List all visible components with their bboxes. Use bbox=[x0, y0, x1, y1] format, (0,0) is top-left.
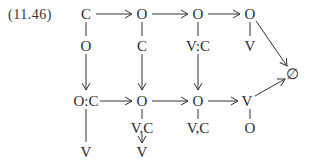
node-r2c3: V:C bbox=[186, 38, 210, 54]
node-r1c3: O bbox=[193, 6, 204, 22]
empty-set-node: ∅ bbox=[286, 66, 299, 82]
node-r4c3: V,C bbox=[187, 120, 210, 136]
node-r1c2: O bbox=[137, 6, 148, 22]
node-r3c4: V bbox=[242, 93, 253, 109]
arrow-r3c4-empty bbox=[255, 79, 285, 96]
nodes: C O O O O C V:C V O:C O O V V,C V,C O V … bbox=[73, 6, 298, 160]
arrow-r1c4-empty bbox=[256, 21, 287, 66]
node-r4c4: O bbox=[245, 120, 256, 136]
node-r2c1: O bbox=[81, 38, 92, 54]
node-r5c1: V bbox=[81, 144, 92, 160]
node-r1c1: C bbox=[81, 6, 91, 22]
equation-label: (11.46) bbox=[8, 7, 52, 23]
node-r3c1: O:C bbox=[73, 93, 98, 109]
node-r2c4: V bbox=[245, 38, 256, 54]
node-r1c4: O bbox=[245, 6, 256, 22]
commutative-diagram: (11.46) C O O O O C bbox=[0, 0, 313, 167]
node-r3c2: O bbox=[137, 93, 148, 109]
node-r5c2: V bbox=[137, 144, 148, 160]
node-r2c2: C bbox=[137, 38, 147, 54]
node-r4c2: V,C bbox=[131, 120, 154, 136]
node-r3c3: O bbox=[193, 93, 204, 109]
